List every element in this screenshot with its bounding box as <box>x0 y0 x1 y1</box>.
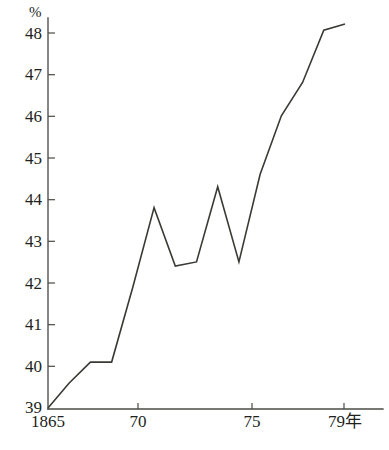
data-series-line <box>48 24 345 408</box>
y-tick-label-40: 40 <box>4 358 42 375</box>
y-tick-label-47: 47 <box>4 66 42 83</box>
x-tick-label-1879: 79年 <box>314 413 376 430</box>
x-tick-label-1865: 1865 <box>10 413 86 430</box>
y-tick-label-41: 41 <box>4 316 42 333</box>
y-tick-label-44: 44 <box>4 191 42 208</box>
line-chart: % 48 47 46 45 44 43 42 41 40 39 1865 <box>0 0 389 450</box>
y-tick-label-42: 42 <box>4 275 42 292</box>
y-tick-label-46: 46 <box>4 108 42 125</box>
axes-group <box>48 18 383 409</box>
y-tick-label-48: 48 <box>4 25 42 42</box>
x-tick-label-1875: 75 <box>227 413 277 430</box>
y-tick-label-45: 45 <box>4 150 42 167</box>
y-tick-marks-group <box>48 33 55 366</box>
x-tick-marks-group <box>138 403 344 409</box>
x-tick-label-1870: 70 <box>113 413 163 430</box>
chart-canvas <box>0 0 389 450</box>
y-tick-label-43: 43 <box>4 233 42 250</box>
